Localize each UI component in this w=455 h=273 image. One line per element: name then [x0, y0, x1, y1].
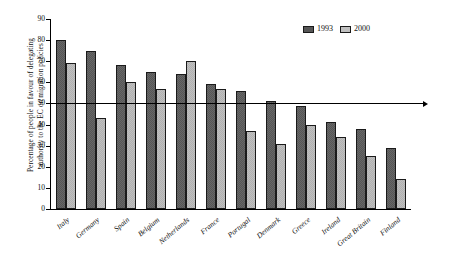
x-label-denmark: Denmark	[262, 212, 292, 272]
x-label-portugal: Portugal	[231, 212, 261, 272]
bar-group	[261, 19, 291, 209]
bar-france-2000	[216, 89, 226, 209]
bar-greece-1993	[296, 106, 306, 209]
bar-groups	[51, 19, 411, 209]
bar-italy-1993	[56, 40, 66, 209]
bar-group	[231, 19, 261, 209]
chart-figure: Percentage of people in favour of delega…	[0, 0, 455, 273]
bar-great-britain-1993	[356, 129, 366, 209]
y-tick-label: 90	[38, 15, 46, 23]
y-tick-label: 0	[41, 205, 45, 213]
x-label-italy: Italy	[51, 212, 81, 272]
y-tick-mark	[46, 188, 50, 189]
x-label-text: Italy	[55, 216, 71, 231]
y-tick-label: 80	[38, 37, 46, 45]
bar-spain-1993	[116, 65, 126, 209]
bar-finland-2000	[396, 179, 406, 209]
bar-spain-2000	[126, 82, 136, 209]
x-label-text: France	[200, 216, 222, 236]
bar-group	[351, 19, 381, 209]
y-tick-mark	[46, 82, 50, 83]
y-tick-label: 40	[38, 121, 46, 128]
bar-portugal-2000	[246, 131, 256, 209]
y-tick-label: 10	[38, 184, 46, 192]
bar-belgium-2000	[156, 89, 166, 209]
y-tick-mark	[46, 19, 50, 20]
x-label-text: Greece	[290, 216, 312, 236]
x-label-text: Finland	[378, 216, 402, 238]
y-tick-mark	[46, 40, 50, 41]
bar-group	[321, 19, 351, 209]
bar-ireland-2000	[336, 137, 346, 209]
x-label-text: Ireland	[320, 216, 342, 236]
plot-area: 9080706050403020100	[50, 19, 411, 210]
y-tick-mark	[46, 61, 50, 62]
x-label-spain: Spain	[111, 212, 141, 272]
y-tick-mark	[46, 167, 50, 168]
bar-denmark-1993	[266, 101, 276, 209]
y-tick-label: 20	[38, 163, 46, 171]
y-tick-mark	[46, 125, 50, 126]
x-axis-labels: ItalyGermanySpainBelgiumNetherlandsFranc…	[51, 212, 412, 272]
bar-netherlands-2000	[186, 61, 196, 209]
x-label-finland: Finland	[382, 212, 412, 272]
x-axis-line	[50, 209, 411, 210]
bar-group	[171, 19, 201, 209]
bar-group	[81, 19, 111, 209]
bar-netherlands-1993	[176, 74, 186, 209]
bar-italy-2000	[66, 63, 76, 209]
bar-germany-2000	[96, 118, 106, 209]
bar-finland-1993	[386, 148, 396, 209]
bar-belgium-1993	[146, 72, 156, 209]
x-label-text: Spain	[113, 216, 131, 233]
bar-group	[111, 19, 141, 209]
reference-line-arrow-icon	[423, 101, 428, 107]
x-label-greece: Greece	[292, 212, 322, 272]
y-tick-label: 60	[38, 79, 46, 87]
bar-portugal-1993	[236, 91, 246, 209]
bar-great-britain-2000	[366, 156, 376, 209]
x-label-france: France	[201, 212, 231, 272]
y-tick-label: 50	[38, 100, 46, 108]
x-label-great-britain: Great Britain	[352, 212, 382, 272]
y-axis-title-line-1: Percentage of people in favour of delega…	[26, 0, 36, 214]
bar-germany-1993	[86, 51, 96, 209]
x-label-germany: Germany	[81, 212, 111, 272]
x-label-netherlands: Netherlands	[171, 212, 201, 272]
bar-group	[141, 19, 171, 209]
y-tick-mark	[46, 146, 50, 147]
y-tick-label: 70	[38, 58, 46, 66]
bar-group	[201, 19, 231, 209]
reference-line	[50, 103, 423, 104]
bar-group	[381, 19, 411, 209]
bar-group	[291, 19, 321, 209]
bar-greece-2000	[306, 125, 316, 209]
x-label-text: Belgium	[137, 216, 162, 238]
y-tick-mark	[46, 209, 50, 210]
y-tick-label: 30	[38, 142, 46, 150]
bar-group	[51, 19, 81, 209]
bar-denmark-2000	[276, 144, 286, 209]
bar-ireland-1993	[326, 122, 336, 209]
